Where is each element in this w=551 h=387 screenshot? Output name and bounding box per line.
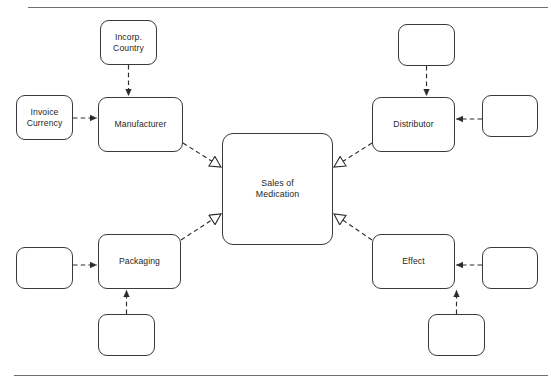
node-effect-label: Effect <box>373 256 454 266</box>
node-effect[interactable]: Effect <box>372 234 455 289</box>
node-empty-top-right[interactable] <box>398 24 455 66</box>
connector-effect-to-sales <box>334 214 372 240</box>
node-incorp-country[interactable]: Incorp. Country <box>100 20 157 65</box>
node-packaging[interactable]: Packaging <box>98 234 181 289</box>
node-invoice-currency[interactable]: Invoice Currency <box>16 95 73 140</box>
node-invoice-currency-label: Invoice Currency <box>17 107 72 128</box>
node-distributor-label: Distributor <box>373 119 454 129</box>
node-empty-right-middle[interactable] <box>482 95 538 137</box>
node-sales-of-medication-label: Sales of Medication <box>223 178 332 199</box>
connector-manufacturer-to-sales <box>183 143 221 167</box>
node-manufacturer-label: Manufacturer <box>99 119 182 129</box>
node-manufacturer[interactable]: Manufacturer <box>98 97 183 152</box>
node-empty-left-lower[interactable] <box>16 247 73 289</box>
connector-packaging-to-sales <box>181 214 221 240</box>
connector-distributor-to-sales <box>334 143 372 167</box>
node-empty-below-effect[interactable] <box>428 314 485 356</box>
node-empty-right-lower[interactable] <box>482 247 538 289</box>
node-incorp-country-label: Incorp. Country <box>101 32 156 53</box>
node-empty-below-packaging[interactable] <box>98 314 155 356</box>
node-packaging-label: Packaging <box>99 256 180 266</box>
node-distributor[interactable]: Distributor <box>372 97 455 152</box>
diagram-canvas: Incorp. Country Invoice Currency Manufac… <box>0 0 551 387</box>
node-sales-of-medication[interactable]: Sales of Medication <box>222 133 333 245</box>
